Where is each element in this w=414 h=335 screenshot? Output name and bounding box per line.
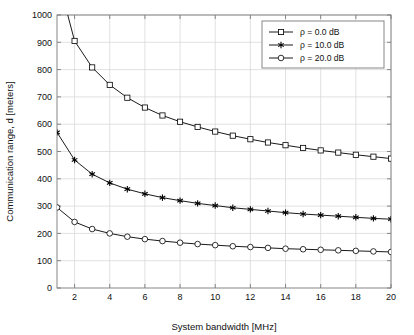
x-tick-label: 12: [245, 292, 255, 302]
data-point-marker: [278, 29, 283, 34]
data-point-marker: [283, 246, 289, 252]
data-point-marker: [371, 249, 377, 255]
data-point-marker: [318, 247, 324, 253]
x-tick-label: 14: [281, 292, 291, 302]
legend-label-1: ρ = 0.0 dB: [300, 27, 340, 37]
y-tick-label: 700: [37, 92, 52, 102]
y-tick-label: 200: [37, 229, 52, 239]
data-point-marker: [142, 236, 148, 242]
data-point-marker: [90, 65, 95, 70]
data-point-marker: [125, 234, 131, 240]
data-point-marker: [300, 246, 306, 252]
y-tick-label: 400: [37, 174, 52, 184]
data-point-marker: [301, 145, 306, 150]
y-tick-label: 900: [37, 38, 52, 48]
data-point-marker: [353, 152, 358, 157]
data-point-marker: [177, 240, 183, 246]
x-tick-label: 6: [142, 292, 147, 302]
data-point-marker: [107, 82, 112, 87]
legend-label-3: ρ = 20.0 dB: [300, 53, 345, 63]
data-point-marker: [213, 129, 218, 134]
data-point-marker: [248, 244, 254, 250]
data-point-marker: [195, 124, 200, 129]
y-tick-label: 600: [37, 119, 52, 129]
data-point-marker: [72, 219, 78, 225]
data-point-marker: [160, 238, 166, 244]
y-tick-label: 500: [37, 147, 52, 157]
x-tick-label: 2: [72, 292, 77, 302]
y-tick-label: 300: [37, 201, 52, 211]
data-point-marker: [125, 95, 130, 100]
data-point-marker: [72, 38, 77, 43]
y-tick-label: 0: [47, 283, 52, 293]
line-chart: 0100200300400500600700800900100024681012…: [0, 0, 414, 335]
data-point-marker: [177, 119, 182, 124]
data-point-marker: [230, 243, 236, 249]
data-point-marker: [265, 245, 271, 251]
data-point-marker: [248, 137, 253, 142]
data-point-marker: [335, 248, 341, 254]
x-tick-label: 20: [386, 292, 396, 302]
data-point-marker: [283, 143, 288, 148]
chart-figure: 0100200300400500600700800900100024681012…: [0, 0, 414, 335]
data-point-marker: [278, 55, 284, 61]
data-point-marker: [336, 150, 341, 155]
x-tick-label: 10: [210, 292, 220, 302]
data-point-marker: [371, 154, 376, 159]
data-point-marker: [353, 248, 359, 254]
data-point-marker: [142, 105, 147, 110]
y-axis-title: Communication range, d [meters]: [4, 81, 15, 221]
data-point-marker: [318, 148, 323, 153]
x-tick-label: 18: [351, 292, 361, 302]
x-axis-title: System bandwidth [MHz]: [171, 321, 276, 332]
data-point-marker: [195, 241, 201, 247]
x-tick-label: 16: [316, 292, 326, 302]
data-point-marker: [89, 226, 95, 232]
y-tick-label: 800: [37, 65, 52, 75]
y-tick-label: 1000: [32, 10, 52, 20]
data-point-marker: [212, 242, 218, 248]
data-point-marker: [107, 231, 113, 237]
x-tick-label: 4: [107, 292, 112, 302]
y-tick-label: 100: [37, 256, 52, 266]
x-tick-label: 8: [178, 292, 183, 302]
data-point-marker: [160, 113, 165, 118]
legend-label-2: ρ = 10.0 dB: [300, 40, 345, 50]
data-point-marker: [230, 133, 235, 138]
data-point-marker: [265, 140, 270, 145]
